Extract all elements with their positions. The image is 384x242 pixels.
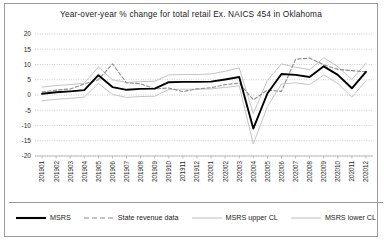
x-axis-tick-label: 201902 xyxy=(53,161,60,183)
legend-item-msrs-lower-cl: MSRS lower CL xyxy=(291,213,376,222)
x-axis-tick-label: 202009 xyxy=(320,161,327,183)
legend-item-state-revenue-data: State revenue data xyxy=(84,213,179,222)
y-axis-tick-label: -15 xyxy=(21,137,31,144)
x-axis-tick-label: 202010 xyxy=(334,161,341,183)
x-axis-tick-label: 201910 xyxy=(165,161,172,183)
x-axis-tick-label: 202012 xyxy=(362,161,369,183)
x-axis-tick-label: 202011 xyxy=(348,161,355,182)
y-axis-tick-label: 15 xyxy=(24,46,32,53)
legend-label-state-revenue-data: State revenue data xyxy=(118,213,179,222)
legend-label-msrs: MSRS xyxy=(50,213,71,222)
y-axis-tick-label: -5 xyxy=(25,107,31,114)
legend-item-msrs-upper-cl: MSRS upper CL xyxy=(192,213,278,222)
x-axis-tick-label: 202002 xyxy=(222,161,229,183)
y-axis-tick-label: 20 xyxy=(24,30,32,37)
x-axis-tick-label: 201908 xyxy=(137,161,144,183)
y-axis-tick-label: -20 xyxy=(21,152,31,159)
legend-swatch-msrs-upper-cl xyxy=(192,214,222,222)
x-axis-tick-label: 201907 xyxy=(123,161,130,183)
x-axis-tick-label: 202001 xyxy=(207,161,214,183)
x-axis-tick-label: 201904 xyxy=(81,161,88,183)
x-axis-tick-label: 202005 xyxy=(264,161,271,183)
y-axis-tick-label: 10 xyxy=(24,61,32,68)
y-axis-tick-label: 0 xyxy=(27,91,31,98)
legend-label-msrs-upper-cl: MSRS upper CL xyxy=(226,213,278,222)
x-axis-tick-label: 202004 xyxy=(250,161,257,183)
x-axis-tick-label: 201905 xyxy=(95,161,102,183)
x-axis-tick-label: 201909 xyxy=(151,161,158,183)
x-axis-tick-label: 201906 xyxy=(109,161,116,183)
chart-container: Year-over-year % change for total retail… xyxy=(4,3,378,237)
x-axis-tick-label: 202006 xyxy=(278,161,285,183)
series-line-msrs-lower-cl xyxy=(42,75,366,144)
legend-label-msrs-lower-cl: MSRS lower CL xyxy=(325,213,376,222)
legend-swatch-state-revenue-data xyxy=(84,214,114,222)
x-axis-tick-label: 202003 xyxy=(236,161,243,183)
x-axis-tick-label: 201901 xyxy=(38,161,45,183)
series-line-msrs-upper-cl xyxy=(42,58,366,114)
x-axis-tick-label: 202008 xyxy=(306,161,313,183)
x-axis-tick-label: 202007 xyxy=(292,161,299,183)
x-axis-tick-label: 201911 xyxy=(179,161,186,182)
x-axis-tick-label: 201912 xyxy=(193,161,200,183)
y-axis-tick-label: 5 xyxy=(27,76,31,83)
chart-legend: MSRS State revenue data MSRS upper CL MS… xyxy=(9,202,383,232)
legend-swatch-msrs-lower-cl xyxy=(291,214,321,222)
legend-swatch-msrs xyxy=(16,214,46,222)
x-axis-tick-label: 201903 xyxy=(67,161,74,183)
y-axis-tick-label: -10 xyxy=(21,122,31,129)
legend-item-msrs: MSRS xyxy=(16,213,71,222)
